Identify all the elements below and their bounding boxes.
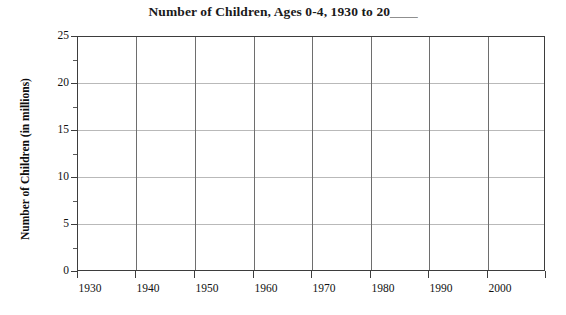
gridline-vertical-1980 [371,37,372,270]
y-tick-label-15: 15 [29,123,69,135]
chart-title-text: Number of Children, Ages 0-4, 1930 to 20 [148,4,390,19]
gridline-horizontal-15 [78,130,544,131]
y-tick-label-0: 0 [29,264,69,276]
x-tick-1990 [428,271,429,278]
x-tick-label-1960: 1960 [236,282,296,294]
chart-title-blank: ____ [390,4,417,19]
x-tick-1950 [194,271,195,278]
gridline-horizontal-5 [78,224,544,225]
x-tick-label-1950: 1950 [177,282,237,294]
x-tick-1970 [311,271,312,278]
x-tick-2010 [545,271,546,278]
gridline-horizontal-20 [78,83,544,84]
chart-title: Number of Children, Ages 0-4, 1930 to 20… [0,4,566,20]
gridline-vertical-1940 [136,37,137,270]
y-tick-label-10: 10 [29,170,69,182]
y-tick-label-25: 25 [29,29,69,41]
x-tick-label-1970: 1970 [294,282,354,294]
x-tick-1930 [77,271,78,278]
gridline-vertical-2000 [488,37,489,270]
gridline-horizontal-10 [78,177,544,178]
plot-area [77,36,545,271]
gridline-vertical-1960 [254,37,255,270]
y-tick-label-20: 20 [29,76,69,88]
x-tick-1940 [135,271,136,278]
x-tick-1960 [253,271,254,278]
y-axis-title: Number of Children (in millions) [19,39,31,279]
x-tick-label-1930: 1930 [60,282,120,294]
gridline-vertical-1950 [195,37,196,270]
gridline-vertical-1970 [312,37,313,270]
x-tick-label-1980: 1980 [353,282,413,294]
y-tick-label-5: 5 [29,217,69,229]
x-tick-2000 [487,271,488,278]
x-tick-label-1990: 1990 [411,282,471,294]
gridline-vertical-1990 [429,37,430,270]
x-tick-label-1940: 1940 [118,282,178,294]
x-tick-1980 [370,271,371,278]
x-tick-label-2000: 2000 [470,282,530,294]
